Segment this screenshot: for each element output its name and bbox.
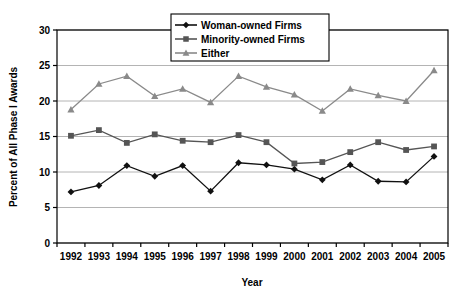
chart-legend: Woman-owned FirmsMinority-owned FirmsEit… [171,14,329,61]
x-tick-label: 1999 [255,251,278,262]
x-tick-label: 2001 [311,251,334,262]
x-tick-label: 1994 [116,251,139,262]
x-tick-label: 1993 [88,251,111,262]
x-tick-label: 2004 [395,251,418,262]
y-tick-label: 20 [39,96,51,107]
data-point-marker [347,149,353,155]
data-point-marker [264,139,270,145]
y-tick-label: 15 [39,131,51,142]
data-point-marker [236,132,242,138]
data-point-marker [291,161,297,167]
x-tick-label: 2005 [423,251,446,262]
y-tick-label: 0 [44,238,50,249]
data-point-marker [96,127,102,133]
x-tick-label: 1998 [227,251,250,262]
x-tick-label: 1997 [199,251,222,262]
y-tick-label: 30 [39,25,51,36]
x-axis-label: Year [241,277,262,288]
data-point-marker [180,138,186,144]
y-tick-label: 25 [39,60,51,71]
legend-label: Woman-owned Firms [201,20,302,31]
data-point-marker [152,131,158,137]
x-tick-label: 1996 [172,251,195,262]
line-chart: 051015202530 199219931994199519961997199… [0,0,469,294]
x-tick-label: 2000 [283,251,306,262]
data-point-marker [68,133,74,139]
x-tick-label: 1995 [144,251,167,262]
x-tick-label: 2002 [339,251,362,262]
data-point-marker [183,36,189,42]
y-tick-label: 5 [44,202,50,213]
y-axis-label: Percent of All Phase I Awards [8,66,19,207]
x-tick-label: 1992 [60,251,83,262]
x-tick-label: 2003 [367,251,390,262]
data-point-marker [375,139,381,145]
legend-label: Minority-owned Firms [201,34,305,45]
data-point-marker [403,147,409,153]
chart-container: 051015202530 199219931994199519961997199… [0,0,469,294]
legend-label: Either [201,48,229,59]
y-tick-label: 10 [39,167,51,178]
data-point-marker [208,139,214,145]
data-point-marker [319,159,325,165]
data-point-marker [124,140,130,146]
data-point-marker [431,144,437,150]
